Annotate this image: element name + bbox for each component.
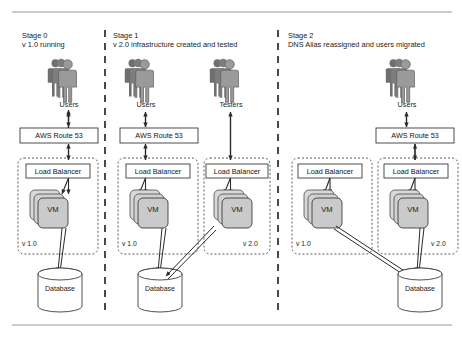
stage-1-v2-version-label: v 2.0 (243, 240, 258, 249)
stage-1-heading: Stage 1 v 2.0 infrastructure created and… (113, 31, 237, 50)
stage-0-vm-label: VM (38, 205, 68, 215)
stage-2-v2-version-label: v 2.0 (431, 240, 446, 249)
stage-1-v2-load-balancer-label[interactable]: Load Balancer (206, 167, 268, 176)
stage-2-heading: Stage 2 DNS Alias reassigned and users m… (288, 31, 425, 50)
stage-0-database-label: Database (38, 285, 82, 294)
stage-1-users-label: Users (121, 100, 171, 109)
stage-1-subtitle: v 2.0 infrastructure created and tested (113, 40, 237, 49)
diagram-canvas: Stage 0 v 1.0 running Users AWS Route 53… (0, 0, 462, 337)
stage-2-title: Stage 2 (288, 31, 313, 40)
stage-2-users-label: Users (382, 100, 432, 109)
stage-2-v2-load-balancer-label[interactable]: Load Balancer (384, 167, 448, 176)
stage-2-artwork (292, 59, 458, 312)
stage-1-artwork (118, 59, 270, 312)
stage-2-subtitle: DNS Alias reassigned and users migrated (288, 40, 425, 49)
stage-2-database-label: Database (398, 285, 442, 294)
stage-2-aws-route-53-label[interactable]: AWS Route 53 (376, 131, 454, 140)
stage-0-version-label: v 1.0 (22, 240, 37, 249)
stage-2-v1-version-label: v 1.0 (296, 240, 311, 249)
stage-0-artwork (18, 59, 98, 312)
stage-1-title: Stage 1 (113, 31, 138, 40)
stage-1-database-label: Database (138, 285, 182, 294)
stage-1-testers-label: Testers (206, 100, 256, 109)
stage-0-aws-route-53-label[interactable]: AWS Route 53 (20, 131, 98, 140)
stage-1-v2-vm-label: VM (222, 205, 252, 215)
stage-1-v1-vm-label: VM (138, 205, 168, 215)
stage-0-title: Stage 0 (22, 31, 47, 40)
stage-1-aws-route-53-label[interactable]: AWS Route 53 (120, 131, 198, 140)
stage-0-subtitle: v 1.0 running (22, 40, 65, 49)
stage-2-v1-vm-label: VM (312, 205, 342, 215)
stage-0-load-balancer-label[interactable]: Load Balancer (26, 167, 90, 176)
stage-1-v1-load-balancer-label[interactable]: Load Balancer (126, 167, 190, 176)
stage-2-v2-vm-label: VM (398, 205, 428, 215)
stage-0-heading: Stage 0 v 1.0 running (22, 31, 65, 50)
stage-2-v1-load-balancer-label[interactable]: Load Balancer (298, 167, 362, 176)
stage-0-users-label: Users (44, 100, 94, 109)
stage-1-v1-version-label: v 1.0 (122, 240, 137, 249)
